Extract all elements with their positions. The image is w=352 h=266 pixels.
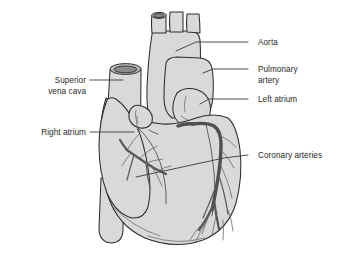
heart-illustration: Aorta Pulmonary artery Left atrium Coron… bbox=[0, 0, 352, 266]
heart-diagram: Aorta Pulmonary artery Left atrium Coron… bbox=[0, 0, 352, 266]
svc-lumen-inner bbox=[114, 66, 137, 73]
label-coronary-arteries-text: Coronary arteries bbox=[258, 151, 322, 160]
label-pulmonary-artery-text-line2: artery bbox=[258, 76, 280, 85]
aortic-branch-middle bbox=[170, 12, 184, 32]
label-pulmonary-artery-text-line1: Pulmonary bbox=[258, 65, 298, 74]
label-superior-vena-cava-text-line1: Superior bbox=[55, 76, 87, 85]
aortic-branch-right bbox=[187, 14, 201, 33]
label-aorta-text: Aorta bbox=[258, 38, 278, 47]
aortic-branch-left-lumen-inner bbox=[154, 14, 164, 18]
label-right-atrium-text: Right atrium bbox=[41, 128, 86, 137]
label-superior-vena-cava-text-line2: vena cava bbox=[48, 87, 86, 96]
label-left-atrium-text: Left atrium bbox=[258, 95, 297, 104]
